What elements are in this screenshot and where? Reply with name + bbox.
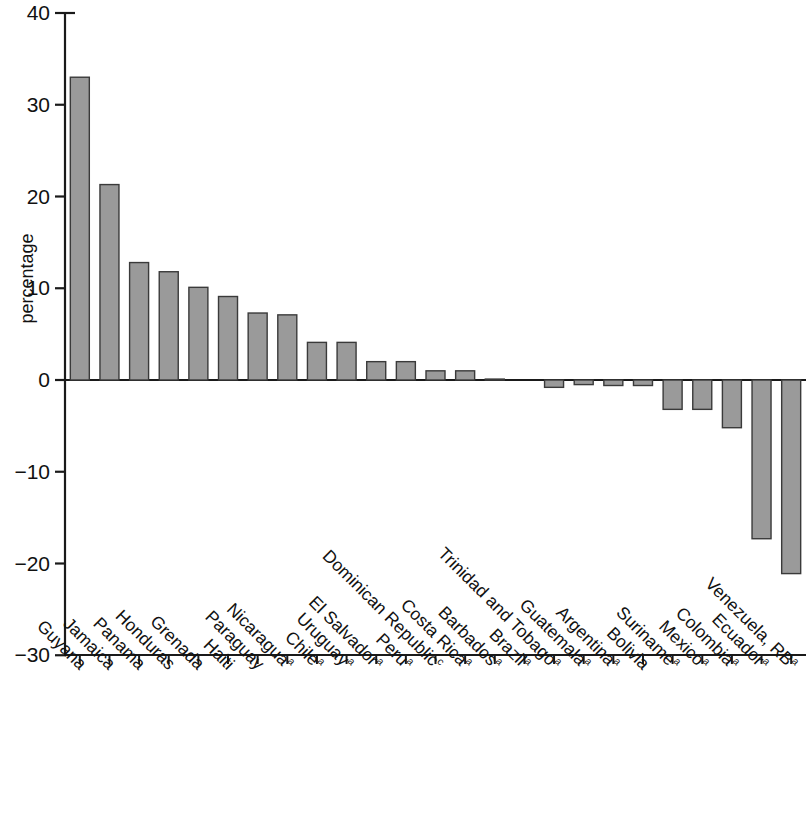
bar: [426, 371, 445, 380]
bar: [278, 315, 297, 380]
bar: [485, 379, 504, 380]
bar: [693, 380, 712, 409]
bar: [189, 287, 208, 380]
bar: [130, 263, 149, 380]
bar: [456, 371, 475, 380]
bar: [100, 185, 119, 380]
bar: [782, 380, 801, 574]
bar: [604, 380, 623, 386]
plot-area: [0, 0, 810, 816]
bar-chart-figure: percentage 403020100−10−20−30 GuyanaJama…: [0, 0, 810, 816]
bar: [633, 380, 652, 386]
bar: [752, 380, 771, 539]
bar: [367, 362, 386, 380]
bar: [248, 313, 267, 380]
bar: [70, 77, 89, 380]
bar: [337, 342, 356, 380]
bar: [574, 380, 593, 385]
bar: [159, 272, 178, 380]
bar: [396, 362, 415, 380]
bar: [663, 380, 682, 409]
bar: [219, 297, 238, 380]
bar: [307, 342, 326, 380]
bar: [545, 380, 564, 387]
bar: [722, 380, 741, 428]
